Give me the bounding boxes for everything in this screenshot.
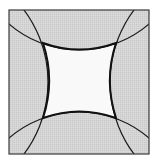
diagram-figure — [0, 0, 159, 166]
inner-curvilinear-region — [43, 43, 116, 118]
curvilinear-square-diagram — [0, 0, 159, 166]
